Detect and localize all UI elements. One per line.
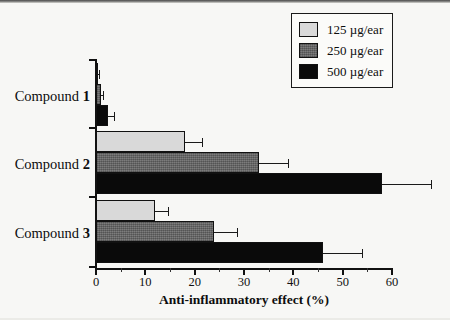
legend-label: 250 µg/ear — [327, 43, 383, 59]
error-bar-cap — [288, 159, 289, 168]
ytick-label-text: Compound — [15, 88, 83, 104]
x-tick-minor — [367, 268, 368, 272]
y-group-tick — [89, 59, 96, 61]
bar — [96, 242, 323, 263]
x-tick-label: 20 — [188, 275, 201, 290]
error-bar-line — [382, 184, 431, 185]
error-bar-cap — [103, 91, 104, 100]
x-tick-label: 60 — [386, 275, 399, 290]
ytick-label-number: 2 — [83, 156, 90, 172]
x-tick-label: 0 — [93, 275, 99, 290]
bar — [96, 200, 155, 221]
x-tick-label: 30 — [238, 275, 251, 290]
bar — [96, 173, 382, 194]
x-tick-major — [391, 268, 393, 275]
x-tick-minor — [219, 268, 220, 272]
x-tick-major — [144, 268, 146, 275]
error-bar-line — [323, 253, 362, 254]
error-bar-line — [214, 232, 236, 233]
error-bar-line — [259, 163, 289, 164]
legend-label: 125 µg/ear — [327, 22, 383, 38]
bar — [96, 105, 108, 126]
x-tick-label: 50 — [336, 275, 349, 290]
ytick-label-compound-2: Compound 2 — [0, 156, 90, 173]
error-bar-cap — [114, 112, 115, 121]
x-tick-label: 10 — [139, 275, 152, 290]
y-group-tick — [89, 127, 96, 129]
x-tick-minor — [170, 268, 171, 272]
legend-item-500[interactable]: 500 µg/ear — [299, 61, 383, 82]
x-tick-major — [194, 268, 196, 275]
x-tick-major — [292, 268, 294, 275]
error-bar-cap — [237, 228, 238, 237]
error-bar-cap — [362, 249, 363, 258]
error-bar-cap — [431, 180, 432, 189]
x-tick-major — [95, 268, 97, 275]
x-tick-major — [243, 268, 245, 275]
chart-figure: Compound 1 Compound 2 Compound 3 0102030… — [0, 0, 450, 320]
plot-area: 0102030405060 — [96, 59, 392, 268]
scan-edge-top — [0, 0, 450, 3]
x-tick-label: 40 — [287, 275, 300, 290]
ytick-label-compound-3: Compound 3 — [0, 225, 90, 242]
error-bar-cap — [99, 70, 100, 79]
legend-item-125[interactable]: 125 µg/ear — [299, 19, 383, 40]
x-tick-major — [342, 268, 344, 275]
error-bar-cap — [202, 138, 203, 147]
ytick-label-text: Compound — [15, 156, 83, 172]
ytick-label-text: Compound — [15, 225, 83, 241]
ytick-label-number: 3 — [83, 225, 90, 241]
x-tick-minor — [318, 268, 319, 272]
x-axis-title: Anti-inflammatory effect (%) — [96, 292, 392, 308]
legend-swatch-icon — [299, 22, 318, 37]
x-tick-minor — [121, 268, 122, 272]
bar — [96, 221, 214, 242]
legend-swatch-icon — [299, 64, 318, 79]
bar — [96, 131, 185, 152]
error-bar-cap — [168, 207, 169, 216]
legend: 125 µg/ear 250 µg/ear 500 µg/ear — [291, 13, 393, 88]
legend-item-250[interactable]: 250 µg/ear — [299, 40, 383, 61]
legend-swatch-icon — [299, 43, 318, 58]
y-group-tick — [89, 196, 96, 198]
bar — [96, 152, 259, 173]
legend-label: 500 µg/ear — [327, 64, 383, 80]
error-bar-line — [155, 211, 167, 212]
error-bar-line — [185, 142, 202, 143]
x-tick-minor — [269, 268, 270, 272]
ytick-label-compound-1: Compound 1 — [0, 88, 90, 105]
ytick-label-number: 1 — [83, 88, 90, 104]
